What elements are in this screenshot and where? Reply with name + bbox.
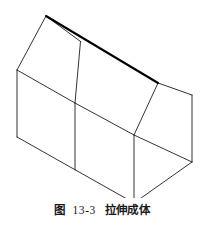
- ridge-line-edge: [46, 16, 158, 83]
- eave-left-edge: [17, 70, 75, 103]
- thin-edge-group: [17, 16, 192, 198]
- figure-container: 图13-3拉伸成体: [0, 0, 204, 225]
- center-vertical-roof-edge: [75, 42, 81, 104]
- base-left-edge: [17, 137, 134, 198]
- base-front-right-edge: [134, 162, 192, 198]
- gable-ridge-to-right-corner-edge: [158, 83, 192, 95]
- roof-left-slope-back-edge: [17, 16, 46, 70]
- figure-caption: 图13-3拉伸成体: [0, 202, 204, 218]
- caption-title: 拉伸成体: [105, 204, 150, 216]
- base-right-back-edge: [134, 135, 192, 162]
- bold-edge-group: [46, 16, 158, 83]
- caption-number: 13-3: [72, 204, 95, 216]
- gable-ridge-to-front-eave-edge: [134, 83, 158, 135]
- eave-right-edge: [75, 103, 134, 135]
- isometric-solid-drawing: [0, 0, 204, 198]
- caption-label: 图: [54, 204, 65, 216]
